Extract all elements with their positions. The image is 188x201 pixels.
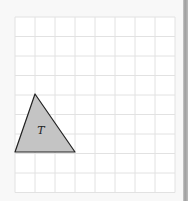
grid-diagram: T	[0, 0, 188, 201]
